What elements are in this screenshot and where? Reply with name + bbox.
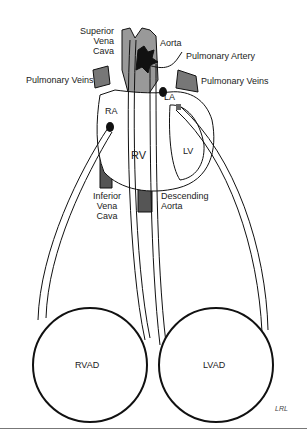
label-lv: LV — [183, 146, 193, 156]
label-pulmonary-veins-left: Pulmonary Veins — [26, 75, 94, 85]
label-line: Cava — [78, 46, 114, 56]
label-rvad: RVAD — [75, 360, 99, 370]
label-line: Aorta — [161, 201, 209, 211]
label-ra: RA — [105, 106, 118, 116]
bottom-divider — [0, 428, 307, 429]
label-line: Vena — [89, 201, 125, 211]
biventricular-assist-device-diagram — [0, 0, 307, 438]
label-line: Cava — [89, 211, 125, 221]
label-line: Superior — [78, 26, 114, 36]
label-pulmonary-veins-right: Pulmonary Veins — [201, 76, 269, 86]
artist-signature: LRL — [275, 404, 288, 414]
label-aorta: Aorta — [160, 38, 182, 48]
label-la: LA — [164, 92, 175, 102]
label-line: Vena — [78, 36, 114, 46]
label-inferior-vena-cava: Inferior Vena Cava — [89, 191, 125, 221]
label-lvad: LVAD — [203, 360, 225, 370]
label-descending-aorta: Descending Aorta — [161, 191, 209, 211]
label-pulmonary-artery: Pulmonary Artery — [186, 51, 255, 61]
label-line: Descending — [161, 191, 209, 201]
label-superior-vena-cava: Superior Vena Cava — [78, 26, 114, 56]
label-line: Inferior — [89, 191, 125, 201]
label-rv: RV — [131, 150, 146, 160]
